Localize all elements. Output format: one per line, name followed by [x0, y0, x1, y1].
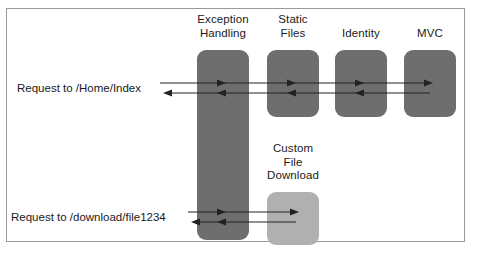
- arrow-home-index-outbound: [163, 90, 430, 97]
- arrowhead-pass-exception-handling-download: [217, 209, 226, 216]
- arrowhead-pass-exception-handling: [217, 80, 226, 87]
- request-flow-arrows: [0, 0, 480, 257]
- arrow-home-index-inbound: [160, 80, 433, 87]
- arrow-file-download-outbound: [191, 219, 296, 226]
- diagram-canvas: Exception Handling Static Files Identity…: [0, 0, 480, 257]
- arrowhead-return-exception-handling-download: [217, 219, 226, 226]
- arrow-file-download-inbound: [188, 209, 299, 216]
- arrowhead-pass-static-files: [287, 80, 296, 87]
- arrowhead-pass-identity: [355, 80, 364, 87]
- arrowhead-return-static-files: [287, 90, 296, 97]
- arrowhead-return-exception-handling: [217, 90, 226, 97]
- arrowhead-return-identity: [355, 90, 364, 97]
